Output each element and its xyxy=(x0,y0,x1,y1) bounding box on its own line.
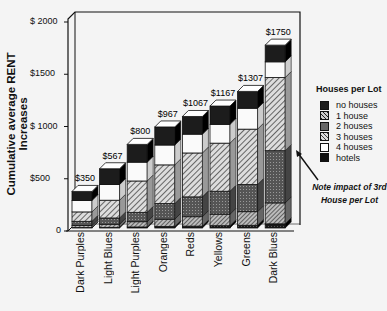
x-tick-label: Light Blues xyxy=(102,232,114,284)
bar-total-label: $1167 xyxy=(211,88,235,98)
legend-item: 3 houses xyxy=(320,132,373,142)
legend-item: 1 house xyxy=(320,111,368,121)
bar-total-label: $800 xyxy=(130,126,150,136)
legend-label: 1 house xyxy=(336,111,368,121)
x-tick-label: Dark Blues xyxy=(267,232,279,283)
legend-label: hotels xyxy=(336,153,360,163)
x-tick-label: Greens xyxy=(240,232,252,266)
y-axis-label: Cumulative average RENT Increases xyxy=(5,29,29,219)
bar-total-label: $1750 xyxy=(266,27,291,37)
annotation-note: Note impact of 3rd House per Lot xyxy=(312,181,387,207)
bar-total-label: $567 xyxy=(103,151,123,161)
legend-item: 2 houses xyxy=(320,121,373,131)
legend-swatch-icon xyxy=(320,143,329,152)
legend-item: hotels xyxy=(320,153,360,163)
bar-yellows: $1167 xyxy=(210,88,236,228)
legend-item: no houses xyxy=(320,100,378,110)
legend-title: Houses per Lot xyxy=(316,84,382,94)
legend-swatch-icon xyxy=(320,101,329,110)
x-tick-label: Dark Purples xyxy=(74,232,86,293)
x-tick-label: Oranges xyxy=(157,232,169,272)
bar-total-label: $1067 xyxy=(183,98,208,108)
legend-swatch-icon xyxy=(320,132,329,141)
bar-greens: $1307 xyxy=(238,73,264,228)
bar-light-blues: $567 xyxy=(100,151,126,228)
bar-light-purples: $800 xyxy=(127,126,153,228)
annotation-line-2: House per Lot xyxy=(312,194,387,207)
x-tick-label: Reds xyxy=(184,232,196,257)
x-tick-label: Light Purples xyxy=(129,232,141,293)
bar-oranges: $967 xyxy=(155,109,181,228)
bar-total-label: $1307 xyxy=(238,73,263,83)
legend-swatch-icon xyxy=(320,153,329,162)
legend-swatch-icon xyxy=(320,111,329,120)
legend-label: 2 houses xyxy=(336,121,373,131)
legend-label: no houses xyxy=(336,100,378,110)
y-tick-label: $ 2000 xyxy=(30,16,64,26)
legend-label: 3 houses xyxy=(336,132,373,142)
legend-swatch-icon xyxy=(320,122,329,131)
bar-dark-blues: $1750 xyxy=(265,27,291,228)
legend-item: 4 houses xyxy=(320,142,373,152)
bar-total-label: $967 xyxy=(158,109,178,119)
x-tick-label: Yellows xyxy=(212,232,224,267)
y-tick-label: $500 xyxy=(30,173,64,183)
legend-label: 4 houses xyxy=(336,142,373,152)
bar-total-label: $350 xyxy=(75,173,95,183)
bar-reds: $1067 xyxy=(182,98,208,228)
y-tick-label: $1500 xyxy=(30,68,64,78)
y-tick-label: $ 1000 xyxy=(30,121,64,131)
annotation-line-1: Note impact of 3rd xyxy=(312,181,387,194)
bar-dark-purples: $350 xyxy=(72,173,98,228)
